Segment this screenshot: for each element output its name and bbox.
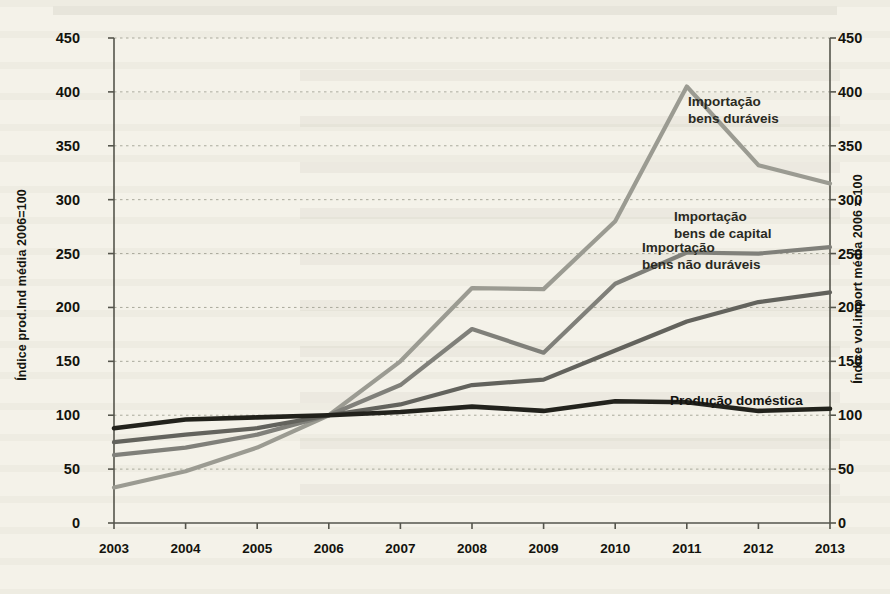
y-tick-label-left-100: 100: [10, 407, 80, 423]
series-label-line2: bens duráveis: [688, 110, 779, 127]
x-tick-label-2008: 2008: [442, 541, 502, 556]
x-tick-label-2005: 2005: [227, 541, 287, 556]
y-tick-label-left-150: 150: [10, 353, 80, 369]
x-tick-label-2010: 2010: [585, 541, 645, 556]
x-tick-label-2011: 2011: [657, 541, 717, 556]
x-tick-label-2009: 2009: [514, 541, 574, 556]
y-tick-label-right-400: 400: [838, 84, 890, 100]
series-label-producao-domestica: Produção doméstica: [670, 392, 803, 409]
series-line-importa-o-bens-de-capital: [114, 247, 830, 455]
series-label-importacao-bens-de-capital: Importação bens de capital: [674, 208, 772, 242]
x-tick-label-2006: 2006: [299, 541, 359, 556]
y-tick-label-left-50: 50: [10, 461, 80, 477]
series-label-line2: bens não duráveis: [642, 256, 761, 273]
series-line-importa-o-bens-dur-veis: [114, 87, 830, 488]
y-tick-label-right-150: 150: [838, 353, 890, 369]
series-lines: [114, 87, 830, 488]
y-tick-label-left-200: 200: [10, 299, 80, 315]
x-tick-label-2004: 2004: [156, 541, 216, 556]
series-label-importacao-bens-duraveis: Importação bens duráveis: [688, 93, 779, 127]
y-tick-label-right-300: 300: [838, 192, 890, 208]
y-tick-label-left-0: 0: [10, 515, 80, 531]
x-tick-label-2007: 2007: [370, 541, 430, 556]
y-tick-label-right-450: 450: [838, 30, 890, 46]
y-tick-label-right-50: 50: [838, 461, 890, 477]
y-tick-label-right-200: 200: [838, 299, 890, 315]
y-tick-label-right-0: 0: [838, 515, 890, 531]
series-label-line1: Importação: [642, 239, 761, 256]
y-tick-label-right-350: 350: [838, 138, 890, 154]
line-chart: Índice prod.Ind média 2006=100 Índice vo…: [0, 0, 890, 594]
series-label-line1: Importação: [674, 208, 772, 225]
x-tick-label-2003: 2003: [84, 541, 144, 556]
y-tick-label-left-250: 250: [10, 246, 80, 262]
x-tick-label-2013: 2013: [800, 541, 860, 556]
y-tick-label-left-350: 350: [10, 138, 80, 154]
y-tick-label-left-400: 400: [10, 84, 80, 100]
series-label-importacao-bens-nao-duraveis: Importação bens não duráveis: [642, 239, 761, 273]
series-label-line1: Produção doméstica: [670, 392, 803, 409]
y-tick-label-right-100: 100: [838, 407, 890, 423]
y-tick-label-left-300: 300: [10, 192, 80, 208]
series-label-line1: Importação: [688, 93, 779, 110]
y-tick-label-right-250: 250: [838, 246, 890, 262]
x-tick-label-2012: 2012: [728, 541, 788, 556]
y-tick-label-left-450: 450: [10, 30, 80, 46]
